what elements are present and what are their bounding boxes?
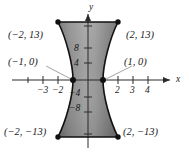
point-2-13 [115,19,120,24]
x-tick-label-3: 3 [130,86,135,96]
x-tick-label-neg3: −3 [37,86,48,96]
x-tick-label-2: 2 [115,86,120,96]
y-tick-label-neg4: −4 [69,89,80,99]
point-2-neg13 [115,134,120,139]
point-neg2-13 [55,19,60,24]
point-annotation-neg2-13: (−2, 13) [8,30,43,41]
y-tick-label-8: 8 [74,44,79,54]
leader-line-right [106,66,132,79]
point-neg2-neg13 [55,134,60,139]
y-axis-label: y [89,3,93,13]
graph-figure: y x −3 −2 2 3 4 8 4 −4 −8 (−2, 13) (2, 1… [0,0,189,157]
x-tick-label-4: 4 [145,86,150,96]
x-axis-label: x [176,75,180,85]
point-annotation-neg2-neg13: (−2, −13) [4,127,46,138]
x-tick-label-neg2: −2 [52,86,63,96]
point-annotation-2-neg13: (2, −13) [123,127,158,138]
point-1-0 [100,77,106,83]
point-neg1-0 [70,77,76,83]
point-annotation-neg1-0: (−1, 0) [8,57,38,68]
y-tick-label-neg8: −8 [69,104,80,114]
y-tick-label-4: 4 [74,59,79,69]
point-annotation-2-13: (2, 13) [126,30,154,41]
point-annotation-1-0: (1, 0) [124,57,147,68]
